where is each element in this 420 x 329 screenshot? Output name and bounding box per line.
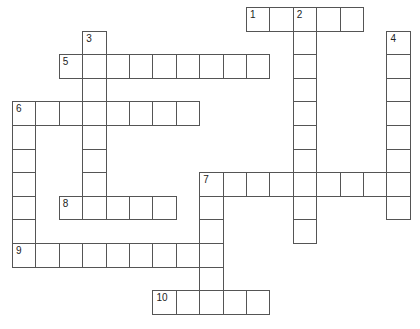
clue-number: 4 xyxy=(390,34,396,44)
crossword-cell[interactable] xyxy=(82,172,106,197)
crossword-cell[interactable] xyxy=(35,101,59,126)
crossword-cell[interactable] xyxy=(199,290,223,315)
crossword-cell[interactable] xyxy=(152,196,176,221)
clue-number: 1 xyxy=(250,10,256,20)
crossword-cell[interactable] xyxy=(269,7,293,32)
crossword-cell[interactable] xyxy=(293,149,317,174)
crossword-cell[interactable] xyxy=(246,290,270,315)
crossword-cell[interactable] xyxy=(12,196,36,221)
crossword-cell[interactable]: 4 xyxy=(386,31,410,56)
crossword-cell[interactable] xyxy=(293,78,317,103)
crossword-cell[interactable] xyxy=(176,290,200,315)
crossword-cell[interactable] xyxy=(269,172,293,197)
crossword-cell[interactable] xyxy=(199,243,223,268)
crossword-cell[interactable] xyxy=(152,101,176,126)
crossword-cell[interactable] xyxy=(129,101,153,126)
crossword-cell[interactable] xyxy=(223,290,247,315)
crossword-cell[interactable] xyxy=(199,196,223,221)
crossword-cell[interactable] xyxy=(386,125,410,150)
crossword-cell[interactable]: 6 xyxy=(12,101,36,126)
crossword-cell[interactable]: 10 xyxy=(152,290,176,315)
crossword-cell[interactable] xyxy=(82,149,106,174)
crossword-cell[interactable] xyxy=(82,243,106,268)
crossword-cell[interactable]: 5 xyxy=(59,54,83,79)
clue-number: 9 xyxy=(16,246,22,256)
crossword-cell[interactable]: 9 xyxy=(12,243,36,268)
crossword-cell[interactable] xyxy=(176,243,200,268)
crossword-cell[interactable] xyxy=(223,172,247,197)
crossword-cell[interactable] xyxy=(293,125,317,150)
crossword-cell[interactable] xyxy=(106,101,130,126)
crossword-cell[interactable] xyxy=(82,101,106,126)
crossword-cell[interactable] xyxy=(293,219,317,244)
crossword-cell[interactable] xyxy=(340,172,364,197)
crossword-cell[interactable] xyxy=(293,101,317,126)
clue-number: 8 xyxy=(63,199,69,209)
crossword-cell[interactable] xyxy=(246,54,270,79)
crossword-cell[interactable] xyxy=(12,149,36,174)
crossword-cell[interactable] xyxy=(82,125,106,150)
crossword-cell[interactable] xyxy=(199,54,223,79)
crossword-cell[interactable] xyxy=(316,7,340,32)
crossword-cell[interactable] xyxy=(363,172,387,197)
crossword-cell[interactable] xyxy=(386,78,410,103)
crossword-cell[interactable] xyxy=(129,243,153,268)
clue-number: 5 xyxy=(63,57,69,67)
crossword-cell[interactable] xyxy=(386,54,410,79)
crossword-cell[interactable]: 7 xyxy=(199,172,223,197)
crossword-cell[interactable] xyxy=(386,101,410,126)
clue-number: 6 xyxy=(16,104,22,114)
crossword-cell[interactable] xyxy=(82,54,106,79)
crossword-cell[interactable] xyxy=(82,78,106,103)
crossword-cell[interactable] xyxy=(386,196,410,221)
crossword-cell[interactable] xyxy=(340,7,364,32)
crossword-cell[interactable] xyxy=(12,219,36,244)
crossword-cell[interactable] xyxy=(293,31,317,56)
clue-number: 2 xyxy=(297,10,303,20)
crossword-cell[interactable]: 2 xyxy=(293,7,317,32)
crossword-cell[interactable] xyxy=(316,172,340,197)
crossword-cell[interactable] xyxy=(293,196,317,221)
crossword-cell[interactable]: 1 xyxy=(246,7,270,32)
crossword-cell[interactable] xyxy=(246,172,270,197)
crossword-cell[interactable] xyxy=(293,172,317,197)
crossword-cell[interactable] xyxy=(12,172,36,197)
crossword-cell[interactable] xyxy=(152,243,176,268)
crossword-cell[interactable] xyxy=(106,243,130,268)
crossword-cell[interactable] xyxy=(199,267,223,292)
crossword-cell[interactable] xyxy=(35,243,59,268)
crossword-cell[interactable] xyxy=(223,54,247,79)
crossword-cell[interactable] xyxy=(82,196,106,221)
crossword-cell[interactable] xyxy=(106,54,130,79)
crossword-cell[interactable] xyxy=(59,243,83,268)
clue-number: 3 xyxy=(86,34,92,44)
crossword-cell[interactable] xyxy=(106,196,130,221)
clue-number: 10 xyxy=(156,293,167,303)
crossword-cell[interactable] xyxy=(199,219,223,244)
crossword-cell[interactable] xyxy=(59,101,83,126)
crossword-cell[interactable] xyxy=(176,101,200,126)
crossword-grid: 12345697810 xyxy=(0,0,420,329)
crossword-cell[interactable] xyxy=(176,54,200,79)
crossword-cell[interactable]: 8 xyxy=(59,196,83,221)
crossword-cell[interactable] xyxy=(386,149,410,174)
crossword-cell[interactable] xyxy=(129,54,153,79)
crossword-cell[interactable] xyxy=(293,54,317,79)
crossword-cell[interactable] xyxy=(12,125,36,150)
crossword-cell[interactable] xyxy=(129,196,153,221)
crossword-cell[interactable]: 3 xyxy=(82,31,106,56)
crossword-cell[interactable] xyxy=(386,172,410,197)
clue-number: 7 xyxy=(203,175,209,185)
crossword-cell[interactable] xyxy=(152,54,176,79)
